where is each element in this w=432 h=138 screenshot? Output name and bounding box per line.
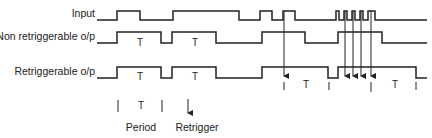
period-marker: T: [137, 71, 143, 82]
monostable-timing-diagram: Input Non retriggerable o/p Retriggerabl…: [0, 0, 432, 138]
legend-period-symbol: T: [138, 100, 144, 111]
non-retriggerable-waveform: [97, 32, 427, 43]
period-marker: T: [192, 37, 198, 48]
input-label: Input: [72, 7, 95, 19]
input-waveform: [97, 11, 427, 20]
legend-retrigger-label: Retrigger: [175, 121, 219, 133]
period-marker: T: [137, 37, 143, 48]
period-marker: T: [303, 79, 309, 90]
legend-period-label: Period: [126, 121, 157, 133]
retriggerable-label: Retriggerable o/p: [14, 65, 95, 77]
retriggerable-waveform: [97, 67, 427, 78]
period-marker: T: [392, 79, 398, 90]
non-retriggerable-label: Non retriggerable o/p: [0, 30, 95, 42]
period-marker: T: [192, 71, 198, 82]
